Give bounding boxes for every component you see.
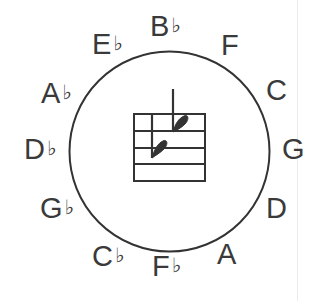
flat-icon: ♭ (113, 33, 122, 53)
key-letter: A (217, 240, 236, 269)
key-label-fflat: F♭ (152, 252, 181, 281)
key-label-bflat: B♭ (150, 12, 181, 41)
center-staff (134, 89, 205, 181)
flat-icon: ♭ (115, 245, 124, 265)
key-letter: B (150, 12, 169, 41)
fifths-circle (70, 52, 270, 252)
key-letter: G (40, 194, 63, 223)
key-label-eflat: E♭ (92, 30, 123, 59)
key-label-dflat: D♭ (24, 135, 56, 164)
flat-icon: ♭ (62, 82, 71, 102)
key-letter: F (221, 31, 239, 60)
key-letter: E (92, 30, 111, 59)
flat-sign-lower (152, 114, 167, 158)
key-letter: D (24, 135, 45, 164)
key-label-cflat: C♭ (92, 242, 124, 271)
flat-icon: ♭ (172, 255, 181, 275)
key-label-g: G (282, 135, 305, 164)
key-letter: C (266, 76, 287, 105)
flat-icon: ♭ (65, 197, 74, 217)
flat-sign-upper (173, 89, 188, 132)
flat-icon: ♭ (47, 138, 56, 158)
key-label-gflat: G♭ (40, 194, 74, 223)
key-label-d: D (266, 194, 287, 223)
key-label-f: F (221, 31, 239, 60)
key-letter: F (152, 252, 170, 281)
flat-icon: ♭ (171, 15, 180, 35)
key-letter: A (41, 79, 60, 108)
key-label-c: C (266, 76, 287, 105)
key-letter: D (266, 194, 287, 223)
key-letter: C (92, 242, 113, 271)
key-label-a: A (217, 240, 236, 269)
key-letter: G (282, 135, 305, 164)
key-label-aflat: A♭ (41, 79, 72, 108)
